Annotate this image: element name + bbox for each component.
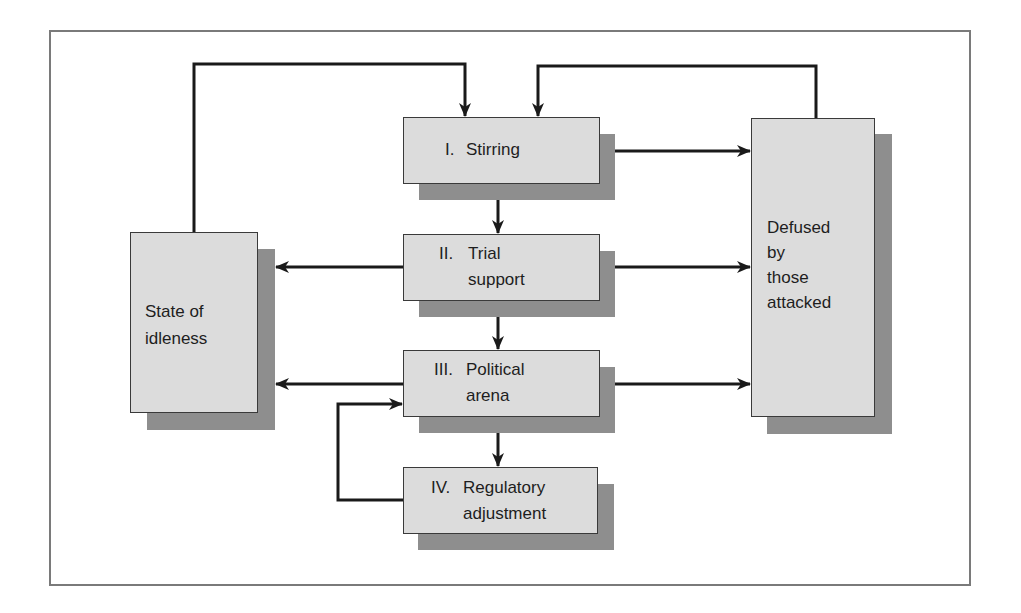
- regulatory-adjustment-box: IV. Regulatory adjustment: [403, 467, 598, 534]
- political-arena-label-line2: arena: [466, 385, 509, 407]
- state-of-idleness-box: State of idleness: [130, 232, 258, 413]
- trial-support-box: II. Trial support: [403, 234, 600, 301]
- stirring-numeral: I.: [445, 139, 454, 161]
- defused-box: Defused by those attacked: [751, 118, 875, 417]
- defused-label-line1: Defused: [767, 217, 830, 239]
- trial-support-numeral: II.: [439, 243, 453, 265]
- idleness-label-line2: idleness: [145, 328, 207, 350]
- regulatory-adjustment-label-line1: Regulatory: [463, 477, 545, 499]
- defused-label-line4: attacked: [767, 292, 831, 314]
- political-arena-numeral: III.: [434, 359, 453, 381]
- idleness-label-line1: State of: [145, 301, 204, 323]
- political-arena-label-line1: Political: [466, 359, 525, 381]
- defused-label-line2: by: [767, 242, 785, 264]
- defused-label-line3: those: [767, 267, 809, 289]
- regulatory-adjustment-numeral: IV.: [431, 477, 450, 499]
- stirring-box: I. Stirring: [403, 117, 600, 184]
- stirring-label: Stirring: [466, 139, 520, 161]
- trial-support-label-line1: Trial: [468, 243, 500, 265]
- trial-support-label-line2: support: [468, 269, 525, 291]
- regulatory-adjustment-label-line2: adjustment: [463, 503, 546, 525]
- political-arena-box: III. Political arena: [403, 350, 600, 417]
